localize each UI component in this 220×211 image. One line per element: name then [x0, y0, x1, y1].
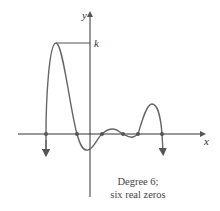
polynomial-graph: y k x Degree 6; six real zeros — [0, 0, 220, 211]
caption-line-2: six real zeros — [100, 188, 176, 201]
caption-line-1: Degree 6; — [100, 175, 176, 188]
zero-point — [100, 132, 104, 136]
zero-point — [160, 132, 164, 136]
zero-point — [75, 132, 79, 136]
y-axis-label: y — [82, 10, 87, 21]
zero-point — [136, 132, 140, 136]
x-axis-label: x — [204, 136, 209, 147]
degree-6-curve — [46, 43, 163, 152]
zero-point — [44, 132, 48, 136]
k-label: k — [94, 38, 99, 49]
caption: Degree 6; six real zeros — [100, 175, 176, 201]
zero-point — [121, 132, 125, 136]
